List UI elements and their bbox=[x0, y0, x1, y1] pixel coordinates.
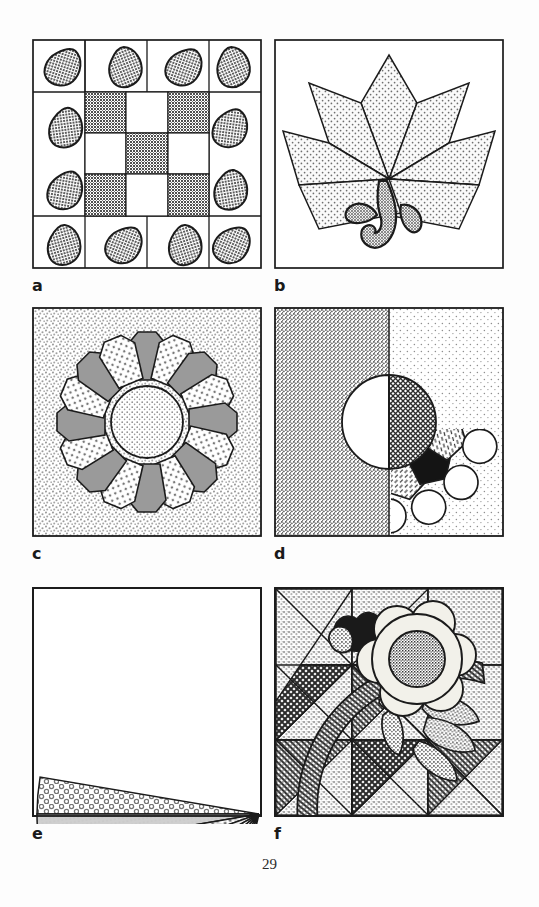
figure-panel-f: f bbox=[273, 581, 505, 846]
book-page: a bbox=[0, 0, 539, 907]
figure-label-f: f bbox=[274, 824, 281, 844]
figure-label-b: b bbox=[274, 276, 285, 296]
figure-label-e: e bbox=[32, 824, 43, 844]
figure-label-a: a bbox=[32, 276, 43, 296]
figure-a-checkerboard bbox=[85, 92, 209, 216]
figure-label-c: c bbox=[32, 544, 41, 564]
figure-panel-b: b bbox=[273, 33, 505, 298]
figure-panel-a: a bbox=[31, 33, 263, 298]
figure-b-illustration bbox=[273, 33, 505, 276]
figure-c-center-circle bbox=[111, 386, 183, 458]
figure-panel-e: e bbox=[31, 581, 263, 846]
figure-a-illustration bbox=[31, 33, 263, 276]
figure-label-d: d bbox=[274, 544, 285, 564]
page-number: 29 bbox=[0, 856, 539, 873]
figure-panel-d: d bbox=[273, 301, 505, 566]
figure-panel-c: c bbox=[31, 301, 263, 566]
figure-d-illustration bbox=[273, 301, 505, 544]
figure-f-illustration bbox=[273, 581, 505, 824]
figure-c-illustration bbox=[31, 301, 263, 544]
figure-f-flower-center bbox=[389, 631, 445, 687]
figure-grid: a bbox=[31, 33, 505, 833]
figure-e-illustration bbox=[31, 581, 263, 824]
